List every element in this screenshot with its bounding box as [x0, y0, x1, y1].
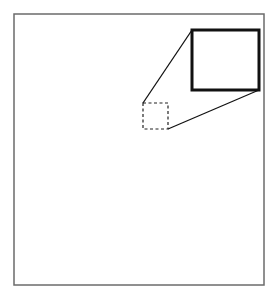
source-region-dashed-box [143, 103, 168, 129]
magnified-region-box [192, 30, 259, 90]
connector-line-top [143, 30, 192, 103]
zoom-inset-diagram [0, 0, 278, 301]
connector-line-bottom [168, 90, 259, 129]
